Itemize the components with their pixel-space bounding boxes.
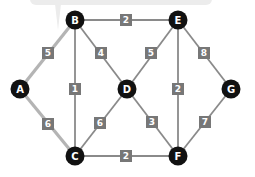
weight-label: 8 (201, 48, 207, 58)
node-label: F (175, 151, 182, 162)
weight-label: 7 (202, 117, 208, 127)
weight-d-f: 3 (146, 116, 158, 128)
weight-c-f: 2 (120, 150, 132, 162)
weight-label: 4 (98, 48, 104, 58)
weight-b-e: 2 (120, 14, 132, 26)
node-label: D (123, 84, 131, 95)
weight-f-g: 7 (199, 116, 211, 128)
weight-a-b: 5 (42, 47, 54, 59)
weight-label: 2 (123, 151, 129, 161)
node-c: C (66, 147, 85, 166)
weight-e-f: 2 (172, 83, 184, 95)
weight-label: 2 (175, 84, 181, 94)
weight-label: 3 (149, 117, 155, 127)
nodes: ABCDEFG (11, 11, 241, 166)
weight-a-c: 6 (42, 118, 54, 130)
weight-label: 5 (45, 48, 51, 58)
node-label: B (71, 15, 79, 26)
node-label: C (71, 151, 78, 162)
bubble-tail (55, 4, 61, 30)
weight-label: 5 (148, 48, 154, 58)
node-d: D (118, 80, 137, 99)
node-b: B (66, 11, 85, 30)
node-g: G (222, 80, 241, 99)
graph-canvas: 561426253287 ABCDEFG (0, 0, 255, 177)
weight-c-d: 6 (94, 117, 106, 129)
node-label: E (175, 15, 182, 26)
weight-label: 1 (72, 84, 78, 94)
node-a: A (11, 80, 30, 99)
weight-label: 2 (123, 15, 129, 25)
node-f: F (169, 147, 188, 166)
node-label: G (227, 84, 235, 95)
weight-b-c: 1 (69, 83, 81, 95)
weight-label: 6 (45, 119, 51, 129)
weight-e-g: 8 (198, 47, 210, 59)
node-e: E (169, 11, 188, 30)
weight-label: 6 (97, 118, 103, 128)
weight-b-d: 4 (95, 47, 107, 59)
weight-d-e: 5 (145, 47, 157, 59)
node-label: A (16, 84, 24, 95)
